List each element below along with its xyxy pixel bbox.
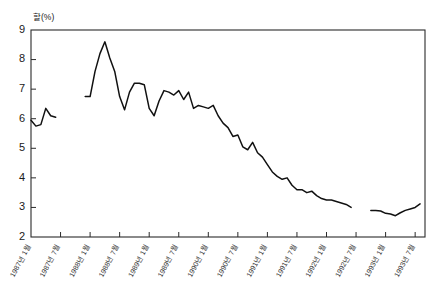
series-line-segment-3 xyxy=(371,204,420,216)
x-axis-tick-label: 1987년 1월 xyxy=(8,243,33,279)
y-axis-tick-label: 4 xyxy=(19,171,25,183)
x-axis-tick-label: 1990년 7월 xyxy=(215,243,240,279)
x-axis-tick-label: 1987년 7월 xyxy=(37,243,62,279)
x-axis-tick-label: 1992년 7월 xyxy=(333,243,358,279)
y-axis-tick-label: 3 xyxy=(19,200,25,212)
x-axis-labels: 1987년 1월1987년 7월1988년 1월1988년 7월1989년 1월… xyxy=(8,243,417,279)
series-line-segment-1 xyxy=(31,108,56,126)
y-axis-tick-label: 8 xyxy=(19,52,25,64)
y-axis-tick-label: 7 xyxy=(19,82,25,94)
x-axis-tick-label: 1989년 1월 xyxy=(126,243,151,279)
line-chart: 할(%) 23456789 1987년 1월1987년 7월1988년 1월19… xyxy=(0,0,443,305)
y-axis-unit-text: 할(%) xyxy=(33,12,54,22)
x-axis-tick-label: 1993년 7월 xyxy=(392,243,417,279)
y-axis-tick-label: 2 xyxy=(19,230,25,242)
y-axis-ticks: 23456789 xyxy=(19,23,36,242)
y-axis-unit-label: 할(%) xyxy=(33,12,54,22)
x-axis-tick-label: 1988년 1월 xyxy=(67,243,92,279)
chart-container: 할(%) 23456789 1987년 1월1987년 7월1988년 1월19… xyxy=(0,0,443,305)
x-axis-tick-label: 1992년 1월 xyxy=(303,243,328,279)
x-axis-ticks xyxy=(61,232,416,237)
data-series xyxy=(31,42,420,216)
y-axis-tick-label: 9 xyxy=(19,23,25,35)
x-axis-tick-label: 1989년 7월 xyxy=(156,243,181,279)
y-axis-tick-label: 5 xyxy=(19,141,25,153)
y-axis-tick-label: 6 xyxy=(19,112,25,124)
x-axis-tick-label: 1991년 1월 xyxy=(244,243,269,279)
x-axis-tick-label: 1993년 1월 xyxy=(363,243,388,279)
plot-frame xyxy=(31,30,425,237)
x-axis-tick-label: 1990년 1월 xyxy=(185,243,210,279)
series-line-segment-2 xyxy=(85,42,351,208)
x-axis-tick-label: 1991년 7월 xyxy=(274,243,299,279)
x-axis-tick-label: 1988년 7월 xyxy=(97,243,122,279)
